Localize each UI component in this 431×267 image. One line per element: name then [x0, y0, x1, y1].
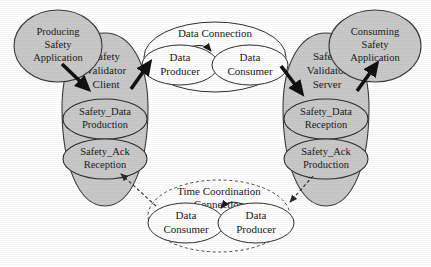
- time-coordination-data-producer-label-line-2: Producer: [236, 223, 276, 235]
- consuming-safety-application-label-line-2: Safety: [362, 39, 390, 50]
- safety-validator-client-label-line-3: Client: [93, 78, 120, 90]
- data-connection-data-consumer[interactable]: Data Consumer: [212, 45, 288, 85]
- safety-ack-reception-label-line-1: Safety_Ack: [80, 146, 130, 157]
- consuming-safety-application[interactable]: Consuming Safety Application: [329, 10, 421, 82]
- diagram-canvas: Safety Validator Client Safety_Data Prod…: [0, 0, 431, 267]
- time-coordination-data-consumer[interactable]: Data Consumer: [148, 203, 224, 243]
- data-connection-data-producer-label-line-2: Producer: [160, 65, 200, 77]
- data-connection-data-consumer-label-line-1: Data: [240, 51, 261, 63]
- producing-safety-application[interactable]: Producing Safety Application: [14, 10, 102, 82]
- safety-validator-diagram: Safety Validator Client Safety_Data Prod…: [0, 0, 431, 267]
- time-coordination-data-producer-label-line-1: Data: [246, 209, 267, 221]
- consuming-safety-application-label-line-3: Application: [350, 52, 400, 63]
- producing-safety-application-label-line-2: Safety: [45, 39, 73, 50]
- data-connection-data-producer-label-line-1: Data: [170, 51, 191, 63]
- consuming-safety-application-label-line-1: Consuming: [351, 26, 400, 37]
- safety-data-reception-label-line-1: Safety_Data: [300, 106, 352, 117]
- safety-data-reception-label-line-2: Reception: [305, 119, 348, 130]
- safety-data-reception[interactable]: Safety_Data Reception: [284, 99, 368, 139]
- data-connection[interactable]: Data Connection Data Producer Data Consu…: [142, 22, 288, 92]
- data-connection-label: Data Connection: [178, 27, 253, 39]
- safety-ack-production[interactable]: Safety_Ack Production: [284, 139, 368, 179]
- producing-safety-application-label-line-1: Producing: [36, 26, 80, 37]
- time-coordination-connection-label-line-1: Time Coordination: [177, 185, 261, 197]
- safety-ack-reception-label-line-2: Reception: [84, 159, 127, 170]
- safety-ack-production-label-line-2: Production: [303, 159, 350, 170]
- time-coordination-data-consumer-label-line-1: Data: [176, 209, 197, 221]
- time-coordination-data-producer[interactable]: Data Producer: [218, 203, 294, 243]
- safety-data-production-label-line-2: Production: [82, 119, 129, 130]
- safety-validator-server-label-line-3: Server: [313, 78, 342, 90]
- safety-ack-production-label-line-1: Safety_Ack: [301, 146, 351, 157]
- time-coordination-connection[interactable]: Time Coordination Connection Data Consum…: [148, 180, 294, 252]
- time-coordination-data-consumer-label-line-2: Consumer: [163, 223, 209, 235]
- data-connection-data-producer[interactable]: Data Producer: [142, 45, 218, 85]
- safety-data-production-label-line-1: Safety_Data: [79, 106, 131, 117]
- data-connection-data-consumer-label-line-2: Consumer: [227, 65, 273, 77]
- safety-ack-reception[interactable]: Safety_Ack Reception: [63, 139, 147, 179]
- producing-safety-application-label-line-3: Application: [33, 52, 83, 63]
- safety-data-production[interactable]: Safety_Data Production: [63, 99, 147, 139]
